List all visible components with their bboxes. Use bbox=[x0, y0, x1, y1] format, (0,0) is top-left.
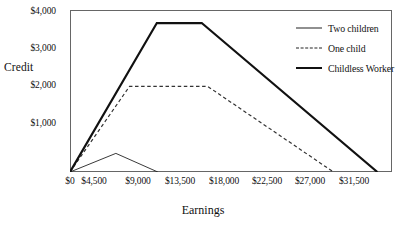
legend-item-childless-worker: Childless Worker bbox=[296, 58, 400, 78]
chart-legend: Two children One child Childless Worker bbox=[296, 18, 400, 78]
x-axis-tick-label: $31,500 bbox=[329, 176, 379, 186]
thick-solid-line-icon bbox=[296, 63, 322, 73]
dashed-line-icon bbox=[296, 43, 322, 53]
y-axis-tick-label: $3,000 bbox=[4, 43, 56, 53]
series-line bbox=[70, 153, 158, 172]
legend-item-label: One child bbox=[322, 43, 365, 54]
x-axis-tick-label: $13,500 bbox=[155, 176, 205, 186]
legend-item-one-child: One child bbox=[296, 38, 400, 58]
y-axis-tick-label: $4,000 bbox=[4, 6, 56, 16]
y-axis-title: Credit bbox=[4, 61, 60, 73]
legend-item-label: Childless Worker bbox=[322, 63, 394, 74]
legend-item-label: Two children bbox=[322, 23, 379, 34]
x-axis-tick-label: $27,000 bbox=[285, 176, 335, 186]
thin-solid-line-icon bbox=[296, 23, 322, 33]
chart-figure: Credit $4,000 $3,000 $2,000 $1,000 $0 $4… bbox=[0, 0, 406, 227]
x-axis-tick-label: $4,500 bbox=[69, 176, 119, 186]
y-axis-tick-label: $2,000 bbox=[4, 80, 56, 90]
x-axis-title: Earnings bbox=[0, 203, 406, 218]
series-line bbox=[70, 86, 333, 172]
y-axis-tick-label: $1,000 bbox=[4, 118, 56, 128]
legend-item-two-children: Two children bbox=[296, 18, 400, 38]
